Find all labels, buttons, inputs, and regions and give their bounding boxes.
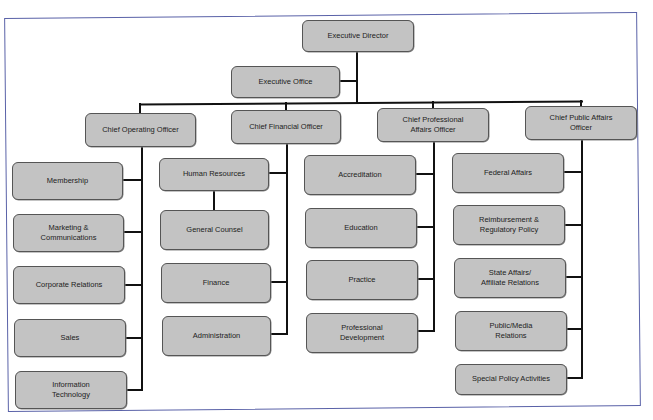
connector-cpuao-5 (566, 377, 583, 379)
connector-coo-5 (126, 389, 143, 391)
node-public-media-relations: Public/Media Relations (455, 311, 567, 351)
connector-coo-4 (125, 337, 142, 339)
connector-cpuao-4 (566, 328, 583, 330)
connector-coo-spine (141, 146, 143, 391)
node-finance: Finance (161, 263, 271, 303)
connector-coo-1 (122, 179, 142, 181)
connector-root-down (356, 51, 358, 104)
node-marketing-communications: Marketing & Communications (13, 214, 124, 252)
node-membership: Membership (12, 162, 123, 200)
node-chief-public-affairs-officer: Chief Public Affairs Officer (525, 106, 637, 140)
connector-cpuao-spine (581, 139, 583, 378)
connector-cfo-4 (270, 333, 287, 335)
connector-coo-3 (124, 284, 142, 286)
connector-cpao-3 (417, 278, 434, 280)
connector-cpuao-2 (565, 224, 582, 226)
node-education: Education (305, 208, 417, 248)
node-professional-development: Professional Development (306, 313, 418, 353)
node-state-affairs-affiliate-relations: State Affairs/ Affiliate Relations (454, 258, 566, 298)
node-federal-affairs: Federal Affairs (452, 153, 564, 193)
connector-cpao-1 (415, 173, 434, 175)
connector-cpao-spine (433, 141, 435, 332)
node-chief-financial-officer: Chief Financial Officer (231, 110, 341, 144)
connector-cpuao-1 (564, 171, 582, 173)
node-information-technology: Information Technology (15, 371, 127, 409)
connector-hr-gc (213, 190, 215, 210)
connector-cfo-1 (268, 172, 287, 174)
node-administration: Administration (162, 316, 271, 356)
node-corporate-relations: Corporate Relations (13, 266, 125, 304)
connector-cfo-3 (270, 281, 287, 283)
node-reimbursement-regulatory-policy: Reimbursement & Regulatory Policy (453, 205, 565, 245)
connector-cpao-4 (417, 330, 434, 332)
node-chief-professional-affairs-officer: Chief Professional Affairs Officer (377, 108, 489, 142)
connector-cpuao-3 (565, 276, 582, 278)
node-accreditation: Accreditation (304, 155, 416, 195)
node-chief-operating-officer: Chief Operating Officer (85, 113, 196, 147)
node-special-policy-activities: Special Policy Activities (455, 364, 567, 395)
node-executive-director: Executive Director (302, 20, 414, 52)
node-executive-office: Executive Office (231, 66, 340, 98)
connector-coo-2 (123, 231, 142, 233)
node-general-counsel: General Counsel (160, 210, 269, 250)
node-human-resources: Human Resources (159, 158, 269, 191)
connector-cpao-2 (416, 226, 434, 228)
node-sales: Sales (14, 319, 126, 357)
node-practice: Practice (306, 260, 418, 300)
connector-exec-office (339, 80, 358, 82)
